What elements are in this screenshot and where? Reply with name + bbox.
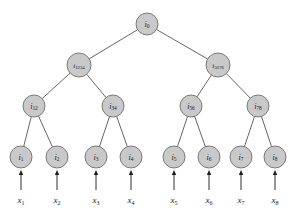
input-label-x6: x6 [205, 195, 213, 206]
tree-node-i34[interactable]: i34 [102, 95, 124, 117]
arrow-head [207, 170, 211, 175]
tree-diagram-canvas: i0i1234i5678i12i34i56i78i1i2i3i4i5i6i7i8… [0, 0, 295, 215]
tree-edge [117, 116, 128, 146]
tree-edge [39, 116, 53, 147]
arrow-head [55, 170, 59, 175]
input-label-x7: x7 [237, 195, 245, 206]
input-arrow-x2 [55, 170, 59, 190]
edges-group [24, 30, 272, 147]
arrow-head [273, 170, 277, 175]
tree-node-i6[interactable]: i6 [198, 146, 220, 168]
tree-node-i1234[interactable]: i1234 [67, 53, 91, 77]
tree-node-i0[interactable]: i0 [136, 13, 158, 35]
tree-edge [197, 75, 211, 97]
input-arrow-x6 [207, 170, 211, 190]
input-arrow-x5 [172, 170, 176, 190]
tree-node-i4[interactable]: i4 [120, 146, 142, 168]
tree-node-i1[interactable]: i1 [10, 146, 32, 168]
input-label-x1: x1 [17, 195, 25, 206]
arrow-head [129, 170, 133, 175]
input-arrow-x3 [94, 170, 98, 190]
tree-node-i7[interactable]: i7 [230, 146, 252, 168]
input-arrow-x1 [19, 170, 23, 190]
tree-diagram-figure: i0i1234i5678i12i34i56i78i1i2i3i4i5i6i7i8… [0, 0, 295, 215]
tree-node-i78[interactable]: i78 [247, 95, 269, 117]
tree-node-i2[interactable]: i2 [46, 146, 68, 168]
tree-edge [87, 74, 106, 97]
input-labels-group: x1x2x3x4x5x6x7x8 [17, 195, 279, 206]
arrow-head [172, 170, 176, 175]
tree-node-i5[interactable]: i5 [163, 146, 185, 168]
tree-edge [195, 116, 206, 146]
arrow-head [94, 170, 98, 175]
input-arrow-x8 [273, 170, 277, 190]
tree-edge [177, 116, 187, 146]
input-label-x2: x2 [53, 195, 61, 206]
tree-edge [261, 116, 271, 146]
tree-node-i5678[interactable]: i5678 [206, 53, 230, 77]
tree-node-i8[interactable]: i8 [264, 146, 286, 168]
arrow-head [19, 170, 23, 175]
tree-edge [24, 117, 32, 147]
input-arrow-x4 [129, 170, 133, 190]
input-label-x5: x5 [170, 195, 178, 206]
tree-edge [89, 30, 137, 59]
input-label-x8: x8 [271, 195, 279, 206]
tree-edge [157, 30, 208, 60]
tree-node-i3[interactable]: i3 [85, 146, 107, 168]
tree-node-i56[interactable]: i56 [180, 95, 202, 117]
input-label-x4: x4 [127, 195, 135, 206]
tree-edge [226, 74, 250, 99]
tree-edge [99, 116, 109, 146]
input-label-x3: x3 [92, 195, 100, 206]
tree-node-i12[interactable]: i12 [23, 95, 45, 117]
arrow-head [239, 170, 243, 175]
tree-edge [244, 116, 254, 146]
input-arrow-x7 [239, 170, 243, 190]
tree-edge [42, 73, 70, 99]
input-arrows-group [19, 170, 277, 190]
